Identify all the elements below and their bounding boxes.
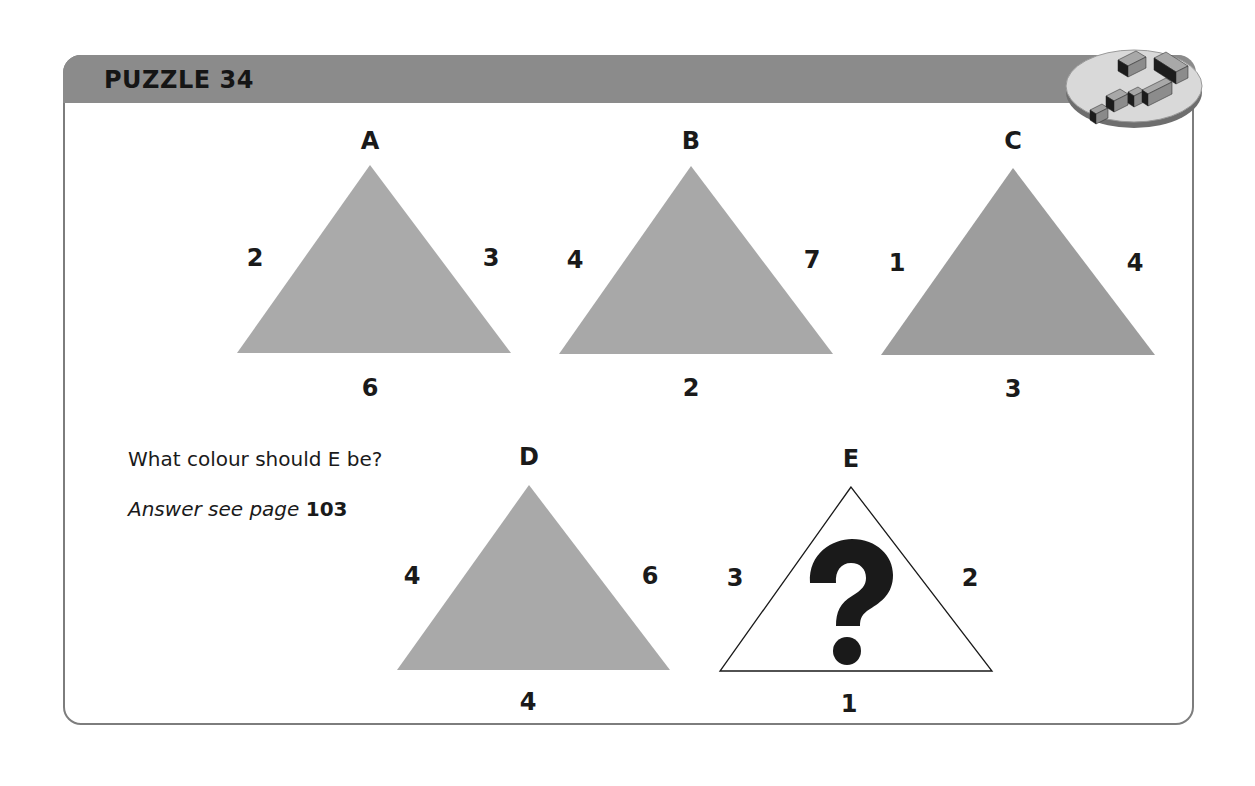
triangle-e-shape (0, 0, 1255, 786)
triangle-e-label: E (843, 445, 859, 473)
triangle-e-left-number: 3 (727, 564, 744, 592)
triangle-e-bottom-number: 1 (841, 690, 858, 718)
triangle-e-right-number: 2 (962, 564, 979, 592)
